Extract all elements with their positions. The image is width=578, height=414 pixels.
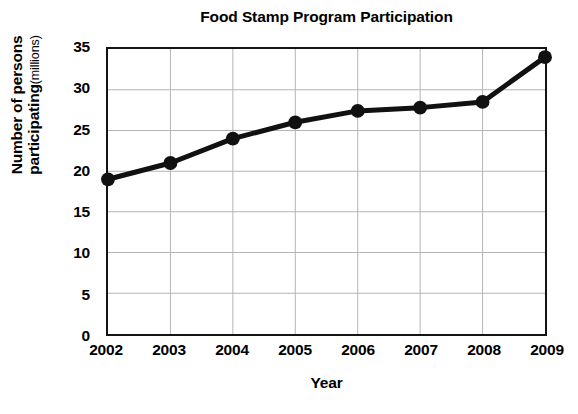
- data-series-line: [108, 49, 545, 334]
- data-point-marker: [288, 115, 302, 129]
- y-axis-tick-label: 5: [82, 286, 90, 304]
- x-axis-tick-labels: 20022003200420052006200720082009: [106, 341, 547, 363]
- chart-title: Food Stamp Program Participation: [106, 8, 547, 26]
- y-axis-tick-label: 35: [73, 38, 90, 56]
- y-axis-title-line-2-text: participating: [25, 84, 42, 174]
- data-point-marker: [351, 104, 365, 118]
- y-axis-tick-label: 30: [73, 79, 90, 97]
- data-point-marker: [101, 172, 115, 186]
- y-axis-tick-label: 25: [73, 121, 90, 139]
- x-axis-tick-label: 2004: [215, 341, 249, 359]
- y-axis-title-line-2: participating(millions): [25, 35, 42, 174]
- x-axis-tick-label: 2007: [404, 341, 438, 359]
- y-axis-tick-label: 10: [73, 244, 90, 262]
- data-point-marker: [538, 50, 552, 64]
- food-stamp-participation-chart: Food Stamp Program Participation 0510152…: [0, 0, 578, 414]
- y-axis-title: Number of persons participating(millions…: [2, 0, 48, 235]
- data-point-marker: [476, 95, 490, 109]
- data-point-marker: [226, 132, 240, 146]
- x-axis-tick-label: 2003: [152, 341, 186, 359]
- data-point-marker: [163, 156, 177, 170]
- y-axis-title-line-1: Number of persons: [8, 36, 25, 175]
- x-axis-tick-label: 2006: [341, 341, 375, 359]
- x-axis-tick-label: 2008: [467, 341, 501, 359]
- plot-area: [106, 47, 547, 336]
- x-axis-tick-label: 2005: [278, 341, 312, 359]
- data-point-marker: [413, 101, 427, 115]
- x-axis-title: Year: [106, 374, 547, 392]
- y-axis-unit: (millions): [28, 35, 42, 84]
- x-axis-tick-label: 2002: [89, 341, 123, 359]
- y-axis-tick-label: 20: [73, 162, 90, 180]
- y-axis-tick-label: 15: [73, 203, 90, 221]
- x-axis-tick-label: 2009: [530, 341, 564, 359]
